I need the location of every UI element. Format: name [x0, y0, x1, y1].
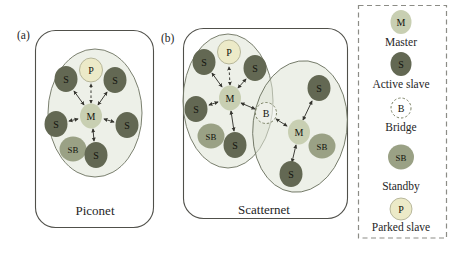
node-bridge: B — [256, 103, 277, 124]
legend-item-parked-slave: P Parked slave — [372, 198, 430, 233]
node-letter: S — [53, 119, 59, 130]
node-letter: P — [88, 65, 94, 76]
node-letter: P — [226, 47, 232, 58]
node-letter: M — [226, 93, 235, 104]
node-letter: SB — [68, 145, 79, 155]
node-active-slave: S — [185, 96, 208, 122]
legend-item-master: M Master — [385, 10, 417, 48]
node-letter: B — [263, 108, 270, 119]
node-letter: SB — [206, 132, 217, 142]
node-active-slave: S — [104, 67, 127, 93]
panel-a: (a) P S S M S — [17, 29, 154, 228]
node-letter: S — [201, 57, 207, 68]
node-letter: M — [295, 127, 304, 138]
node-active-slave: S — [308, 75, 331, 101]
bluetooth-topology-figure: (a) P S S M S — [0, 0, 449, 253]
legend-label: Bridge — [385, 121, 416, 134]
node-letter: S — [63, 74, 69, 85]
node-master: M — [219, 86, 241, 111]
node-master: M — [80, 104, 102, 129]
legend-item-active-slave: S Active slave — [372, 52, 429, 90]
panel-b: (b) P S S M — [161, 29, 355, 219]
legend-label: Master — [385, 36, 417, 48]
node-active-slave: S — [116, 112, 139, 138]
legend-label: Active slave — [372, 78, 429, 90]
legend-symbol: P — [398, 204, 404, 215]
node-active-slave: S — [224, 132, 247, 158]
node-letter: S — [316, 83, 322, 94]
node-active-slave: S — [45, 111, 68, 137]
node-standby: SB — [309, 134, 336, 159]
legend: M Master S Active slave B Bridge SB Stan… — [359, 6, 447, 239]
legend-item-standby: SB Standby — [382, 145, 420, 194]
legend-symbol: M — [397, 17, 406, 28]
node-letter: S — [112, 75, 118, 86]
legend-symbol: B — [398, 103, 405, 114]
panel-a-label: (a) — [17, 29, 30, 42]
figure-canvas: (a) P S S M S — [0, 0, 449, 253]
legend-label: Parked slave — [372, 221, 430, 233]
node-parked-slave: P — [218, 40, 241, 64]
legend-symbol: S — [398, 59, 404, 70]
node-letter: S — [232, 140, 238, 151]
node-letter: S — [124, 120, 130, 131]
node-standby: SB — [198, 124, 225, 149]
panel-b-caption: Scatternet — [238, 202, 290, 217]
node-letter: M — [87, 111, 96, 122]
node-letter: S — [288, 169, 294, 180]
node-standby: SB — [60, 137, 87, 162]
legend-item-bridge: B Bridge — [385, 98, 416, 134]
node-parked-slave: P — [80, 58, 103, 82]
panel-b-label: (b) — [161, 32, 175, 45]
node-active-slave: S — [85, 142, 108, 168]
node-active-slave: S — [280, 161, 303, 187]
node-letter: S — [252, 63, 258, 74]
node-letter: S — [93, 150, 99, 161]
node-active-slave: S — [244, 55, 267, 81]
node-letter: SB — [317, 142, 328, 152]
node-letter: S — [193, 104, 199, 115]
node-master: M — [288, 120, 310, 145]
node-active-slave: S — [55, 66, 78, 92]
panel-a-caption: Piconet — [76, 203, 115, 218]
legend-symbol: SB — [396, 153, 407, 163]
legend-label: Standby — [382, 180, 420, 193]
node-active-slave: S — [193, 49, 216, 75]
